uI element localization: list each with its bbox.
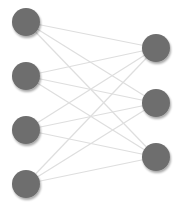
edge-L4-R3	[26, 157, 156, 184]
edge-L4-R1	[26, 48, 156, 184]
network-diagram	[0, 0, 181, 211]
edge-layer	[26, 22, 156, 184]
edge-L3-R1	[26, 48, 156, 130]
edge-L2-R1	[26, 48, 156, 76]
node-L2	[12, 62, 40, 90]
edge-L1-R1	[26, 22, 156, 48]
node-L3	[12, 116, 40, 144]
node-R1	[142, 34, 170, 62]
node-L4	[12, 170, 40, 198]
node-layer	[12, 8, 170, 198]
node-L1	[12, 8, 40, 36]
node-R2	[142, 89, 170, 117]
node-R3	[142, 143, 170, 171]
